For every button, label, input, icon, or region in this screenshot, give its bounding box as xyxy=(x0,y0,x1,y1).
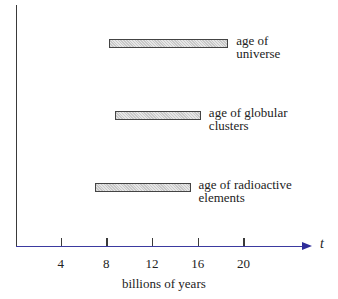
x-tick-label: 20 xyxy=(237,256,250,272)
x-axis-arrow-icon xyxy=(302,242,312,250)
bar-label: age of radioactiveelements xyxy=(199,178,292,204)
range-bar xyxy=(115,111,200,120)
x-tick-label: 16 xyxy=(191,256,204,272)
x-tick xyxy=(106,238,107,246)
x-tick xyxy=(61,238,62,246)
x-axis xyxy=(16,246,306,248)
x-tick-label: 12 xyxy=(146,256,159,272)
x-tick xyxy=(198,238,199,246)
x-tick-label: 8 xyxy=(103,256,110,272)
x-axis-title: billions of years xyxy=(122,276,206,292)
x-tick-label: 4 xyxy=(57,256,64,272)
range-bar xyxy=(109,39,229,48)
x-tick xyxy=(243,238,244,246)
bar-label: age ofuniverse xyxy=(236,34,280,60)
bar-label: age of globularclusters xyxy=(209,106,288,132)
range-bar xyxy=(95,183,191,192)
axis-variable-label: t xyxy=(320,236,324,252)
y-axis xyxy=(16,5,17,247)
x-tick xyxy=(152,238,153,246)
